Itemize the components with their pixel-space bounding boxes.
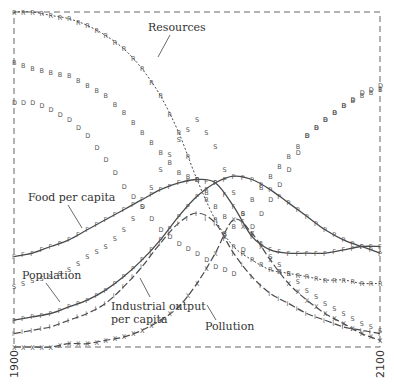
d-marker: D <box>268 196 273 204</box>
d-marker: D <box>232 270 237 278</box>
industrial-output-per-capita-marker: I <box>122 283 124 291</box>
industrial-output-per-capita-marker: I <box>85 310 87 318</box>
population-marker: P <box>250 176 254 184</box>
population-marker: P <box>21 315 25 323</box>
pollution-marker: X <box>222 233 227 241</box>
population-marker: P <box>122 273 126 281</box>
population-marker: P <box>277 193 281 201</box>
population-marker: P <box>296 206 300 214</box>
resources-marker: R <box>369 280 374 288</box>
d-marker: D <box>369 86 374 94</box>
d-marker: D <box>94 144 99 152</box>
food-per-capita-marker: F <box>168 183 172 191</box>
population-marker: P <box>341 236 345 244</box>
d-marker: D <box>241 246 246 254</box>
s-marker: S <box>12 283 16 291</box>
food-per-capita-marker: F <box>314 250 318 258</box>
population-marker: P <box>369 246 373 254</box>
resources-marker: R <box>104 32 109 40</box>
food-per-capita-marker: F <box>177 179 181 187</box>
pollution-marker: X <box>332 315 337 323</box>
s-marker: S <box>351 315 355 323</box>
b-marker: B <box>122 109 126 117</box>
s-marker: S <box>186 126 190 134</box>
s-marker: S <box>296 278 300 286</box>
pollution-marker: X <box>122 333 127 341</box>
industrial-output-per-capita-marker: I <box>268 290 270 298</box>
pollution-marker: X <box>323 310 328 318</box>
population-marker: P <box>323 226 327 234</box>
b-marker: B <box>177 169 181 177</box>
population-marker: P <box>213 179 217 187</box>
s-marker: S <box>195 116 199 124</box>
resources-marker: R <box>158 92 163 100</box>
pollution-marker: X <box>85 340 90 348</box>
population-marker: P <box>12 317 16 325</box>
d-marker: D <box>168 233 173 241</box>
resources-marker: R <box>140 65 145 73</box>
food-per-capita-marker: F <box>85 226 89 234</box>
d-marker: D <box>85 132 90 140</box>
resources-marker: R <box>378 280 383 288</box>
resources-marker: R <box>85 22 90 30</box>
food-per-capita-marker: F <box>113 211 117 219</box>
pollution-marker: X <box>213 250 218 258</box>
industrial-output-per-capita-marker: I <box>287 300 289 308</box>
pollution-marker: X <box>305 297 310 305</box>
s-marker: S <box>131 215 135 223</box>
resources-marker: R <box>149 79 154 87</box>
d-marker: D <box>360 89 365 97</box>
population-marker: P <box>332 231 336 239</box>
d-marker: D <box>49 106 54 114</box>
food-per-capita-marker: F <box>323 250 327 258</box>
pollution-marker: X <box>76 340 81 348</box>
pollution-marker: X <box>94 339 99 347</box>
s-marker: S <box>122 226 126 234</box>
pollution-marker: X <box>195 280 200 288</box>
population-marker: P <box>287 199 291 207</box>
b-marker: B <box>222 213 226 221</box>
d-marker: D <box>113 169 118 177</box>
d-marker: D <box>314 124 319 132</box>
pollution-marker: X <box>21 344 26 352</box>
s-marker: S <box>277 261 281 269</box>
pollution-marker: X <box>287 280 292 288</box>
b-marker: B <box>104 92 108 100</box>
industrial-leader <box>140 278 150 297</box>
d-marker: D <box>40 102 45 110</box>
industrial-output-per-capita-marker: I <box>305 310 307 318</box>
d-marker: D <box>332 109 337 117</box>
resources-marker: R <box>186 153 191 161</box>
resources-marker: R <box>113 39 118 47</box>
food-per-capita-marker: F <box>131 201 135 209</box>
food-per-capita-marker: F <box>49 243 53 251</box>
resources-marker: R <box>250 256 255 264</box>
industrial-output-per-capita-marker: I <box>58 320 60 328</box>
b-marker: B <box>186 173 190 181</box>
s-marker: S <box>168 151 172 159</box>
industrial-output-per-capita-marker: I <box>140 263 142 271</box>
label-resources: Resources <box>148 21 206 57</box>
s-marker: S <box>113 235 117 243</box>
population-marker: P <box>351 240 355 248</box>
b-marker: B <box>58 71 62 79</box>
b-marker: B <box>268 173 272 181</box>
resources-marker: R <box>30 9 35 17</box>
industrial-output-per-capita-marker: I <box>40 325 42 333</box>
d-marker: D <box>186 245 191 253</box>
d-marker: D <box>158 226 163 234</box>
food-per-capita-marker: F <box>104 216 108 224</box>
s-marker: S <box>305 287 309 295</box>
pollution-marker: X <box>204 265 209 273</box>
industrial-output-per-capita-marker: I <box>149 251 151 259</box>
s-marker: S <box>204 129 208 137</box>
population-marker: P <box>360 243 364 251</box>
d-marker: D <box>305 132 310 140</box>
pollution-marker: X <box>67 340 72 348</box>
food-leader <box>68 205 82 228</box>
pollution-marker: X <box>49 344 54 352</box>
pollution-marker: X <box>296 288 301 296</box>
resources-marker: R <box>122 45 127 53</box>
food-per-capita-marker: F <box>67 236 71 244</box>
food-per-capita-marker: F <box>232 203 236 211</box>
